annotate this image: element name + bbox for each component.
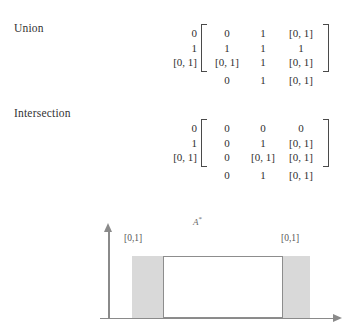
matrix-cell: 0	[207, 73, 247, 88]
matrix-cell: 0	[207, 136, 247, 151]
matrix-cell: 1	[207, 41, 247, 56]
union-matrix-row: 0 1 [0, 1]	[207, 26, 323, 41]
matrix-cell: 1	[247, 55, 279, 70]
matrix-cell: 0	[207, 26, 247, 41]
right-band-label: [0,1]	[281, 233, 299, 243]
matrix-cell: 0	[279, 121, 323, 136]
intersection-row-label: 0	[163, 121, 197, 136]
interval-diagram: [0,1] [0,1] A*	[0, 205, 350, 332]
union-matrix-body: 0 1 [0, 1] 0 1 [0, 1] 1 1 1 [0, 1] 1	[163, 24, 329, 72]
matrix-cell: 0	[207, 121, 247, 136]
matrix-cell: [0, 1]	[279, 168, 323, 183]
core-region-rectangle	[163, 256, 283, 318]
union-caption: Union	[14, 22, 44, 34]
set-label-superscript: *	[199, 215, 203, 223]
matrix-cell: [0, 1]	[279, 150, 323, 165]
intersection-matrix-row: 0 1 [0, 1]	[207, 136, 323, 151]
intersection-matrix-row: 0 0 0	[207, 121, 323, 136]
union-bracket-right	[323, 24, 329, 72]
intersection-matrix-row: 0 [0, 1] [0, 1]	[207, 150, 323, 165]
intersection-matrix-body: 0 1 [0, 1] 0 0 0 0 1 [0, 1] 0 [0, 1]	[163, 119, 329, 167]
union-bottom-row: 0 1 [0, 1]	[207, 72, 323, 88]
matrix-cell: 1	[247, 41, 279, 56]
matrix-cell: [0, 1]	[207, 55, 247, 70]
intersection-caption: Intersection	[14, 107, 71, 119]
left-band-label: [0,1]	[124, 233, 142, 243]
x-axis-arrow-icon	[333, 314, 342, 322]
matrix-cell: [0, 1]	[279, 136, 323, 151]
figure-page: Union 0 1 [0, 1] 0 1 [0, 1] 1 1 1	[0, 0, 350, 332]
matrix-cell: 0	[247, 121, 279, 136]
intersection-matrix-grid: 0 0 0 0 1 [0, 1] 0 [0, 1] [0, 1]	[207, 119, 323, 167]
y-axis-line	[108, 231, 110, 319]
intersection-row-label: [0, 1]	[163, 150, 197, 165]
matrix-cell: 1	[279, 41, 323, 56]
union-matrix-row: [0, 1] 1 [0, 1]	[207, 55, 323, 70]
matrix-cell: [0, 1]	[279, 55, 323, 70]
union-matrix-grid: 0 1 [0, 1] 1 1 1 [0, 1] 1 [0, 1]	[207, 24, 323, 72]
matrix-cell: 1	[247, 168, 279, 183]
intersection-bottom-row: 0 1 [0, 1]	[207, 167, 323, 183]
right-uncertainty-band	[283, 256, 310, 318]
union-matrix-row: 1 1 1	[207, 41, 323, 56]
left-uncertainty-band	[132, 256, 163, 318]
union-row-labels: 0 1 [0, 1]	[163, 24, 201, 72]
matrix-cell: [0, 1]	[279, 26, 323, 41]
matrix-cell: [0, 1]	[279, 73, 323, 88]
matrix-cell: 0	[207, 168, 247, 183]
union-row-label: [0, 1]	[163, 55, 197, 70]
union-row-label: 0	[163, 26, 197, 41]
matrix-cell: 1	[247, 136, 279, 151]
matrix-cell: 1	[247, 73, 279, 88]
matrix-cell: 1	[247, 26, 279, 41]
matrix-cell: [0, 1]	[247, 150, 279, 165]
set-label: A*	[193, 215, 202, 227]
y-axis-arrow-icon	[104, 223, 112, 232]
matrix-cell: 0	[207, 150, 247, 165]
intersection-row-labels: 0 1 [0, 1]	[163, 119, 201, 167]
intersection-matrix: 0 1 [0, 1] 0 0 0 0 1 [0, 1] 0 [0, 1]	[163, 119, 329, 182]
union-matrix: 0 1 [0, 1] 0 1 [0, 1] 1 1 1 [0, 1] 1	[163, 24, 329, 87]
intersection-bracket-right	[323, 119, 329, 167]
union-row-label: 1	[163, 41, 197, 56]
intersection-row-label: 1	[163, 136, 197, 151]
